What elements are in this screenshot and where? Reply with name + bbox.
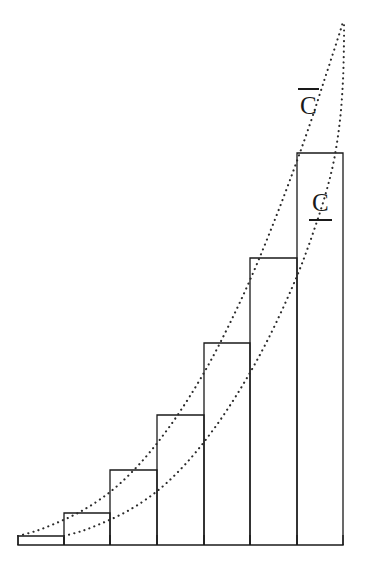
partition-ticks bbox=[18, 535, 343, 545]
bar-rect-1 bbox=[18, 536, 64, 545]
upper-sum-label: C bbox=[299, 93, 318, 118]
bar-series-lower-sum bbox=[18, 153, 343, 545]
upper-sum-label-text: C bbox=[299, 93, 318, 118]
lower-sum-label-text: C bbox=[311, 190, 330, 215]
figure-canvas: C C bbox=[0, 0, 365, 565]
lower-sum-label: C bbox=[311, 190, 330, 215]
darboux-sum-figure bbox=[0, 0, 365, 565]
bar-rect-6 bbox=[250, 258, 297, 545]
dotted-curve-series bbox=[18, 22, 344, 536]
bar-rect-5 bbox=[204, 343, 250, 545]
bar-rect-2 bbox=[64, 513, 110, 545]
upper-sum-curve bbox=[18, 22, 343, 536]
bar-rect-3 bbox=[110, 470, 157, 545]
bar-rect-4 bbox=[157, 415, 204, 545]
